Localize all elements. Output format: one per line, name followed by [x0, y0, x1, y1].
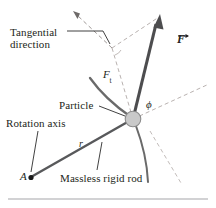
force-vector-arrowhead — [154, 14, 164, 30]
tangential-force-label: Ft — [103, 68, 112, 84]
rotation-axis-label-leader — [31, 131, 38, 172]
radial-dashed-line-lower — [150, 131, 181, 183]
tangential-direction-arrowhead — [73, 11, 80, 19]
rotation-axis-label: Rotation axis — [6, 117, 66, 129]
tangential-direction-line1: Tangential — [10, 26, 57, 38]
radial-dashed-line — [133, 84, 209, 119]
force-vector-shaft — [133, 24, 156, 119]
tangential-force-symbol: F — [103, 68, 110, 80]
rod-label-leader — [97, 142, 102, 170]
force-vector-label: F — [177, 33, 185, 46]
particle-circle — [125, 111, 141, 127]
rotation-axis-point-dot — [28, 175, 33, 180]
angle-phi-label: ϕ — [146, 98, 152, 110]
tangential-force-subscript: t — [110, 76, 112, 85]
projection-corner-tick — [115, 50, 121, 55]
force-projection-dashed-line — [112, 48, 133, 119]
axis-point-label: A — [20, 170, 27, 182]
tangential-direction-line2: direction — [10, 38, 57, 50]
radius-label: r — [79, 138, 83, 149]
massless-rigid-rod-label: Massless rigid rod — [60, 172, 142, 184]
tangential-direction-dashed-arrow — [77, 15, 112, 48]
physics-diagram-figure: Tangential direction Particle Rotation a… — [0, 0, 216, 208]
figure-baseline-rule — [8, 198, 208, 200]
tangential-direction-label: Tangential direction — [10, 26, 57, 51]
tangential-label-leader-hook — [103, 31, 110, 44]
particle-label: Particle — [59, 99, 93, 111]
